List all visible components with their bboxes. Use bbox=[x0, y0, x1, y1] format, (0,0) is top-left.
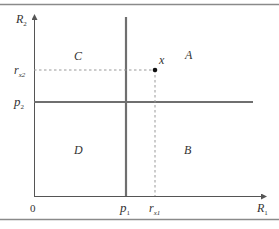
p2-label: p2 bbox=[13, 94, 25, 111]
rx2-label: rx2 bbox=[14, 63, 26, 79]
rx1-label: rx1 bbox=[149, 201, 160, 217]
y-axis-label: R2 bbox=[15, 12, 27, 28]
point-x-label: x bbox=[158, 53, 165, 67]
x-axis-label: R1 bbox=[256, 201, 268, 217]
region-a-label: A bbox=[184, 48, 193, 62]
region-c-label: C bbox=[74, 49, 83, 63]
decision-regions-diagram: x R2 rx2 p2 0 p1 rx1 R1 C A D B bbox=[0, 0, 279, 229]
region-d-label: D bbox=[73, 143, 83, 157]
point-x-marker bbox=[153, 68, 158, 73]
p1-label: p1 bbox=[119, 200, 131, 217]
region-b-label: B bbox=[184, 143, 192, 157]
origin-label: 0 bbox=[30, 202, 36, 214]
